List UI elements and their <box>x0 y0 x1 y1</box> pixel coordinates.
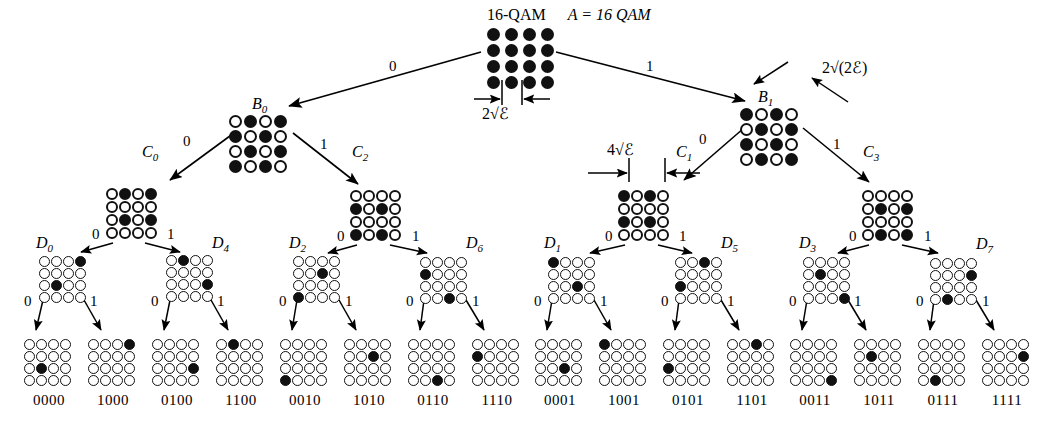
constellation-dot <box>484 375 495 386</box>
constellation-dot <box>329 292 340 303</box>
constellation-dot <box>508 351 519 362</box>
constellation-dot <box>36 375 47 386</box>
constellation-dot <box>363 203 375 215</box>
constellation-dot <box>39 256 50 267</box>
constellation-dot <box>954 282 965 293</box>
constellation-dot <box>376 216 388 228</box>
edge-bit-c0-0: 0 <box>92 226 100 243</box>
constellation-dot <box>316 363 327 374</box>
edge-bit-d5-1: 1 <box>727 293 735 310</box>
edge-bit-c3-1: 1 <box>924 228 932 245</box>
constellation-dot <box>293 256 304 267</box>
constellation-dot <box>930 339 941 350</box>
constellation-dot <box>814 363 825 374</box>
node-D5 <box>675 257 722 304</box>
constellation-dot <box>420 339 431 350</box>
constellation-dot <box>356 375 367 386</box>
constellation-dot <box>751 375 762 386</box>
constellation-dot <box>376 190 388 202</box>
leaf-node-0111 <box>918 339 965 386</box>
constellation-dot <box>75 268 86 279</box>
constellation-dot <box>368 351 379 362</box>
constellation-dot <box>623 351 634 362</box>
constellation-dot <box>644 203 656 215</box>
node-label-C0: C0 <box>142 143 158 163</box>
constellation-dot <box>599 351 610 362</box>
constellation-dot <box>63 268 74 279</box>
edge-bit-d3-0: 0 <box>789 293 797 310</box>
constellation-dot <box>408 363 419 374</box>
constellation-dot <box>119 201 131 213</box>
edge-bit-d4-0: 0 <box>151 293 159 310</box>
constellation-dot <box>982 351 993 362</box>
constellation-dot <box>505 76 518 89</box>
node-label-C3: C3 <box>863 143 879 163</box>
constellation-dot <box>166 267 177 278</box>
constellation-dot <box>75 280 86 291</box>
constellation-dot <box>304 351 315 362</box>
constellation-D0 <box>39 256 86 303</box>
leaf-label-0101: 0101 <box>659 392 717 409</box>
constellation-dot <box>329 280 340 291</box>
constellation-dot <box>420 363 431 374</box>
edge-bit-c3-0: 0 <box>849 228 857 245</box>
leaf-label-0100: 0100 <box>148 392 206 409</box>
constellation-dot <box>675 339 686 350</box>
leaf-node-1100 <box>216 339 263 386</box>
constellation-dot <box>112 375 123 386</box>
constellation-dot <box>862 190 874 202</box>
constellation-dot <box>145 188 157 200</box>
constellation-dot <box>888 203 900 215</box>
constellation-dot <box>317 268 328 279</box>
constellation-dot <box>966 270 977 281</box>
constellation-dot <box>827 257 838 268</box>
constellation-dot <box>814 351 825 362</box>
leaf-node-1001 <box>599 339 646 386</box>
constellation-dot <box>699 375 710 386</box>
constellation-dot <box>432 351 443 362</box>
constellation-dot <box>252 363 263 374</box>
node-label-C2: C2 <box>352 143 368 163</box>
constellation-dot <box>444 293 455 304</box>
constellation-dot <box>178 279 189 290</box>
constellation-dot <box>942 270 953 281</box>
constellation-dot <box>687 293 698 304</box>
constellation-dot <box>878 375 889 386</box>
constellation-dot <box>930 258 941 269</box>
constellation-dot <box>496 363 507 374</box>
constellation-dot <box>559 339 570 350</box>
constellation-leaf-1110 <box>472 339 519 386</box>
constellation-dot <box>132 214 144 226</box>
constellation-dot <box>484 339 495 350</box>
constellation-dot <box>901 203 913 215</box>
constellation-dot <box>456 293 467 304</box>
constellation-dot <box>274 115 287 128</box>
constellation-dot <box>790 351 801 362</box>
constellation-dot <box>293 268 304 279</box>
constellation-dot <box>954 258 965 269</box>
constellation-dot <box>942 375 953 386</box>
constellation-dot <box>505 28 518 41</box>
constellation-dot <box>280 351 291 362</box>
constellation-dot <box>541 60 554 73</box>
constellation-dot <box>350 203 362 215</box>
constellation-dot <box>942 294 953 305</box>
constellation-dot <box>657 190 669 202</box>
constellation-dot <box>675 363 686 374</box>
edge-bit-d6-1: 1 <box>472 293 480 310</box>
constellation-dot <box>166 291 177 302</box>
constellation-dot <box>176 351 187 362</box>
constellation-dot <box>48 351 59 362</box>
leaf-label-0110: 0110 <box>404 392 462 409</box>
edge-bit-d6-0: 0 <box>406 293 414 310</box>
constellation-dot <box>380 363 391 374</box>
constellation-dot <box>875 216 887 228</box>
constellation-dot <box>523 60 536 73</box>
constellation-dot <box>739 375 750 386</box>
constellation-dot <box>839 269 850 280</box>
edge-bit-c0-1: 1 <box>167 226 175 243</box>
constellation-dot <box>547 351 558 362</box>
constellation-dot <box>420 281 431 292</box>
leaf-node-0110 <box>408 339 455 386</box>
constellation-dot <box>63 292 74 303</box>
